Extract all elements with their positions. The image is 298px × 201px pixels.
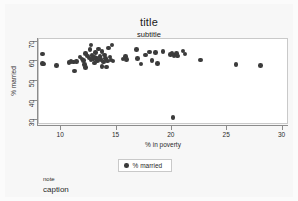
x-tick-label: 25 xyxy=(223,131,230,138)
x-tick-mark xyxy=(116,126,117,130)
data-point xyxy=(110,43,115,48)
data-point xyxy=(161,49,166,54)
data-point xyxy=(89,43,94,48)
chart-note: note xyxy=(43,176,55,182)
legend-label: % married xyxy=(133,162,163,169)
data-point xyxy=(150,58,155,63)
data-point xyxy=(93,50,98,55)
chart-caption: caption xyxy=(43,185,69,194)
data-point xyxy=(74,59,79,64)
data-point xyxy=(139,62,144,67)
data-point xyxy=(155,61,160,66)
data-point xyxy=(104,65,109,70)
x-tick-mark xyxy=(171,126,172,130)
legend-marker-icon xyxy=(124,163,129,168)
y-axis-line xyxy=(37,38,38,125)
x-tick-mark xyxy=(282,126,283,130)
chart-figure-inner: title subtitle 3040506070 1015202530 % m… xyxy=(5,4,293,197)
y-axis-title: % married xyxy=(10,66,17,96)
x-tick-mark xyxy=(60,126,61,130)
data-point xyxy=(41,62,46,67)
x-tick-label: 15 xyxy=(112,131,119,138)
x-axis-line xyxy=(37,125,288,126)
x-tick-mark xyxy=(226,126,227,130)
data-point xyxy=(88,47,93,52)
data-point xyxy=(175,54,180,59)
data-point xyxy=(111,59,116,64)
data-point xyxy=(147,50,152,55)
data-point xyxy=(171,115,176,120)
y-tick-label: 70 xyxy=(28,41,35,48)
data-point xyxy=(40,52,45,57)
data-point xyxy=(234,62,239,67)
x-tick-label: 10 xyxy=(57,131,64,138)
data-point xyxy=(153,50,158,55)
data-point xyxy=(83,65,88,70)
legend[interactable]: % married xyxy=(118,159,172,172)
y-tick-label: 40 xyxy=(28,100,35,107)
chart-title: title xyxy=(5,16,293,28)
data-point xyxy=(124,57,129,62)
chart-figure: title subtitle 3040506070 1015202530 % m… xyxy=(0,0,298,201)
x-tick-label: 30 xyxy=(278,131,285,138)
data-point xyxy=(54,63,59,68)
data-point xyxy=(183,52,188,57)
data-point xyxy=(135,56,140,61)
data-point xyxy=(72,69,77,74)
y-tick-label: 50 xyxy=(28,80,35,87)
data-point xyxy=(134,47,139,52)
y-tick-label: 60 xyxy=(28,60,35,67)
y-tick-label: 30 xyxy=(28,119,35,126)
data-point xyxy=(258,63,263,68)
x-axis-title: % in poverty xyxy=(38,141,288,148)
data-point xyxy=(198,58,203,63)
plot-area xyxy=(38,38,288,124)
x-tick-label: 20 xyxy=(167,131,174,138)
